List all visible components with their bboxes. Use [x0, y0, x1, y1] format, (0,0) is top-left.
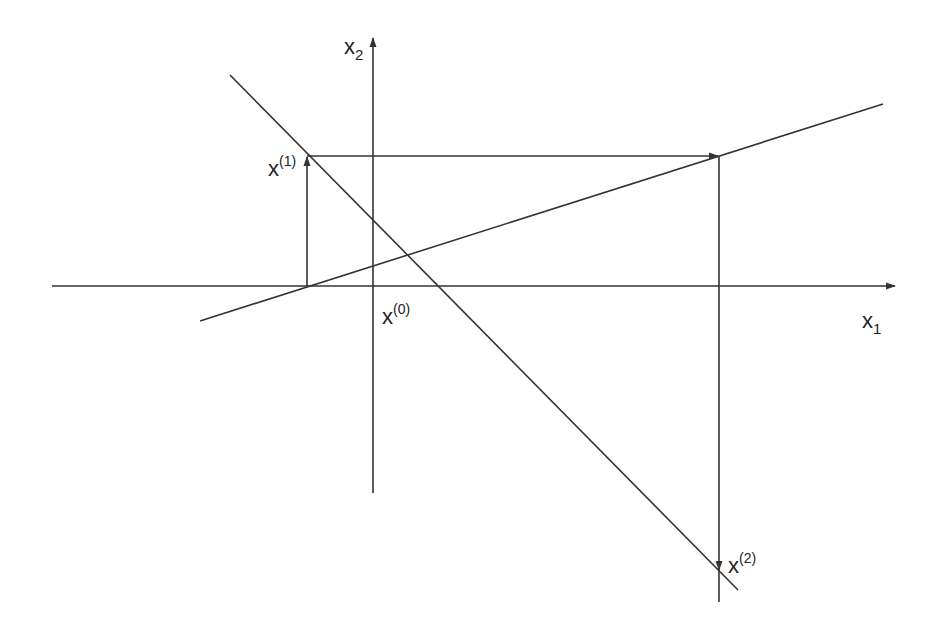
point-label-x1: x(1)	[268, 158, 296, 180]
line-ascending	[200, 104, 883, 321]
line-descending	[230, 75, 738, 590]
x1-axis-label: x1	[862, 310, 881, 332]
x2-axis-label: x2	[344, 36, 363, 58]
diagram-svg	[0, 0, 936, 643]
point-label-x2: x(2)	[728, 555, 756, 577]
diagram-canvas: x2 x1 x(1) x(0) x(2)	[0, 0, 936, 643]
point-label-x0: x(0)	[382, 306, 410, 328]
